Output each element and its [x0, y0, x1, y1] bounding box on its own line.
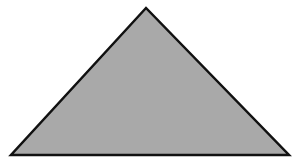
diagram-canvas	[0, 0, 298, 167]
triangle-shape	[11, 8, 289, 155]
triangle-diagram	[0, 0, 298, 167]
